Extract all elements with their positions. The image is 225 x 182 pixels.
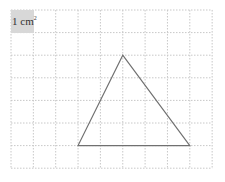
unit-label-text: 1 cm (12, 15, 34, 27)
unit-label-superscript: 2 (34, 15, 37, 21)
dotted-grid (11, 10, 212, 168)
unit-square-label: 1 cm2 (11, 10, 34, 33)
